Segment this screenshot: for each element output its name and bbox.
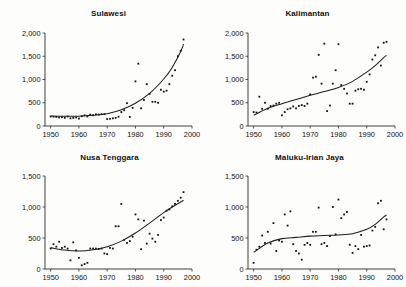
x-tick-label: 1960 <box>71 273 87 282</box>
data-point <box>329 105 331 107</box>
data-point <box>377 47 379 49</box>
data-point <box>253 111 255 113</box>
data-point <box>360 234 362 236</box>
data-point <box>318 54 320 56</box>
data-point <box>70 259 72 261</box>
data-point-group <box>253 199 388 264</box>
x-tick-label: 1970 <box>99 273 115 282</box>
data-point <box>146 83 148 85</box>
data-point <box>177 200 179 202</box>
data-point <box>84 263 86 265</box>
y-tick-label: 0 <box>36 122 40 131</box>
data-point <box>374 226 376 228</box>
data-point <box>140 248 142 250</box>
data-point <box>115 117 117 119</box>
data-point <box>355 90 357 92</box>
data-point <box>168 83 170 85</box>
data-point <box>61 247 63 249</box>
data-point <box>261 108 263 110</box>
data-point <box>377 202 379 204</box>
data-point <box>264 102 266 104</box>
chart-panel-kalimantan: Kalimantan 05001,0001,5002,0001950196019… <box>203 0 406 144</box>
data-point <box>53 243 55 245</box>
data-point <box>366 81 368 83</box>
data-point <box>301 104 303 106</box>
plot-nusa-tenggara: 05001,0001,500195019601970198019902000 <box>0 144 203 287</box>
data-point <box>306 242 308 244</box>
y-tick-label: 0 <box>239 122 243 131</box>
y-tick-label: 2,000 <box>22 29 41 38</box>
y-tick-label: 1,000 <box>22 75 41 84</box>
x-tick-label: 1960 <box>274 130 290 139</box>
data-point <box>369 73 371 75</box>
y-tick-label: 0 <box>36 265 40 274</box>
x-tick-label: 1950 <box>245 130 261 139</box>
data-point <box>374 54 376 56</box>
x-tick-label: 1990 <box>359 273 375 282</box>
y-tick-label: 1,500 <box>22 52 41 61</box>
fitted-trend-curve <box>254 55 387 115</box>
data-point <box>123 109 125 111</box>
data-point <box>340 217 342 219</box>
data-point <box>383 42 385 44</box>
data-point <box>273 222 275 224</box>
data-point <box>290 107 292 109</box>
data-point <box>386 41 388 43</box>
y-tick-label: 2,000 <box>225 29 244 38</box>
data-point <box>335 69 337 71</box>
data-point <box>160 219 162 221</box>
chart-grid: Sulawesi 05001,0001,5002,000195019601970… <box>0 0 406 287</box>
data-point <box>352 252 354 254</box>
y-tick-label: 500 <box>28 98 40 107</box>
data-point <box>369 245 371 247</box>
data-point <box>315 76 317 78</box>
x-tick-label: 1990 <box>156 273 172 282</box>
data-point <box>103 253 105 255</box>
x-tick-label: 2000 <box>387 130 403 139</box>
data-point <box>72 117 74 119</box>
data-point <box>383 228 385 230</box>
fitted-trend-curve <box>51 200 184 251</box>
data-point <box>109 247 111 249</box>
x-tick-label: 1980 <box>330 130 346 139</box>
data-point <box>352 103 354 105</box>
data-point <box>338 43 340 45</box>
data-point <box>315 231 317 233</box>
chart-panel-maluku-irian-jaya: Maluku-Irian Jaya 05001,0001,50019501960… <box>203 144 406 287</box>
data-point <box>67 248 69 250</box>
data-point <box>287 225 289 227</box>
data-point <box>132 107 134 109</box>
data-point <box>163 91 165 93</box>
y-tick-label: 500 <box>231 98 243 107</box>
data-point <box>275 250 277 252</box>
x-tick-label: 1950 <box>245 273 261 282</box>
data-point <box>129 240 131 242</box>
x-tick-label: 1950 <box>42 130 58 139</box>
data-point <box>135 214 137 216</box>
data-point <box>338 199 340 201</box>
axis-lines <box>248 176 395 269</box>
data-point <box>55 246 57 248</box>
data-point <box>129 116 131 118</box>
data-point <box>143 99 145 101</box>
data-point <box>301 259 303 261</box>
data-point <box>380 65 382 67</box>
data-point <box>152 238 154 240</box>
data-point <box>281 241 283 243</box>
data-point <box>81 264 83 266</box>
data-point <box>109 118 111 120</box>
data-point <box>309 244 311 246</box>
data-point <box>371 230 373 232</box>
plot-kalimantan: 05001,0001,5002,000195019601970198019902… <box>203 0 406 144</box>
y-tick-label: 0 <box>239 265 243 274</box>
data-point <box>118 225 120 227</box>
data-point <box>290 210 292 212</box>
y-tick-label: 500 <box>231 234 243 243</box>
data-point <box>355 245 357 247</box>
x-tick-label: 1970 <box>302 130 318 139</box>
data-point <box>112 248 114 250</box>
data-point <box>143 220 145 222</box>
data-point <box>321 83 323 85</box>
x-tick-label: 2000 <box>184 130 200 139</box>
data-point <box>72 241 74 243</box>
